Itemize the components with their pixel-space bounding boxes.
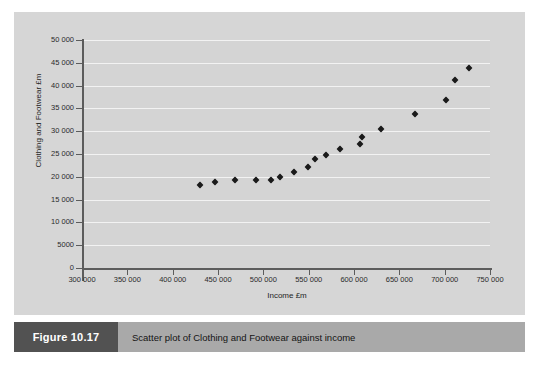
x-axis-tick-label: 600 000 (340, 276, 367, 284)
gridline (82, 177, 490, 178)
y-axis-tick-labels: 0500010 00015 00020 00025 00030 00035 00… (20, 12, 74, 315)
x-axis-tick-label: 350 000 (114, 276, 141, 284)
plot-area (82, 40, 490, 268)
y-axis-tick-label: 30 000 (26, 127, 74, 135)
y-axis-tick-label: 15 000 (26, 196, 74, 204)
gridline (82, 200, 490, 201)
y-axis-tick (76, 177, 83, 178)
gridline (82, 131, 490, 132)
chart-panel: Clothing and Footwear £m 0500010 00015 0… (14, 12, 525, 315)
figure-container: Clothing and Footwear £m 0500010 00015 0… (0, 0, 540, 366)
x-axis-line (82, 268, 492, 270)
y-axis-tick (76, 245, 83, 246)
y-axis-tick-label: 25 000 (26, 150, 74, 158)
figure-number-label: Figure 10.17 (33, 331, 100, 343)
scatter-point (311, 155, 318, 162)
y-axis-tick (76, 131, 83, 132)
gridline (82, 40, 490, 41)
x-axis-tick-label: 500 000 (250, 276, 277, 284)
y-axis-tick-label: 20 000 (26, 173, 74, 181)
gridline (82, 86, 490, 87)
y-axis-tick (76, 86, 83, 87)
y-axis-tick-label: 50 000 (26, 36, 74, 44)
x-axis-tick-label: 300 000 (68, 276, 95, 284)
scatter-point (212, 178, 219, 185)
scatter-point (276, 174, 283, 181)
scatter-point (196, 181, 203, 188)
x-axis-tick-label: 650 000 (386, 276, 413, 284)
scatter-point (357, 140, 364, 147)
y-axis-tick (76, 63, 83, 64)
y-axis-tick (76, 40, 83, 41)
scatter-point (304, 164, 311, 171)
scatter-point (253, 177, 260, 184)
gridline (82, 63, 490, 64)
x-axis-tick-label: 550 000 (295, 276, 322, 284)
gridline (82, 108, 490, 109)
x-axis-tick-label: 700 000 (431, 276, 458, 284)
figure-number-box: Figure 10.17 (14, 322, 118, 352)
y-axis-tick (76, 108, 83, 109)
x-axis-tick-label: 750 000 (476, 276, 503, 284)
y-axis-tick-label: 35 000 (26, 104, 74, 112)
y-axis-tick (76, 222, 83, 223)
gridline (82, 245, 490, 246)
scatter-point (411, 110, 418, 117)
y-axis-tick (76, 154, 83, 155)
scatter-point (336, 145, 343, 152)
scatter-point (322, 151, 329, 158)
scatter-point (466, 64, 473, 71)
figure-caption-text: Scatter plot of Clothing and Footwear ag… (132, 322, 355, 352)
y-axis-tick (76, 200, 83, 201)
y-axis-tick-label: 0 (26, 264, 74, 272)
y-axis-tick-label: 45 000 (26, 59, 74, 67)
scatter-point (442, 96, 449, 103)
figure-caption-bar: Figure 10.17 Scatter plot of Clothing an… (14, 322, 525, 352)
scatter-point (291, 169, 298, 176)
y-axis-tick-label: 5000 (26, 241, 74, 249)
x-axis-title: Income £m (82, 291, 492, 300)
x-axis-tick-label: 450 000 (204, 276, 231, 284)
scatter-point (451, 77, 458, 84)
gridline (82, 154, 490, 155)
y-axis-tick-label: 40 000 (26, 82, 74, 90)
y-axis-tick-label: 10 000 (26, 218, 74, 226)
x-axis-tick-label: 400 000 (159, 276, 186, 284)
gridline (82, 222, 490, 223)
